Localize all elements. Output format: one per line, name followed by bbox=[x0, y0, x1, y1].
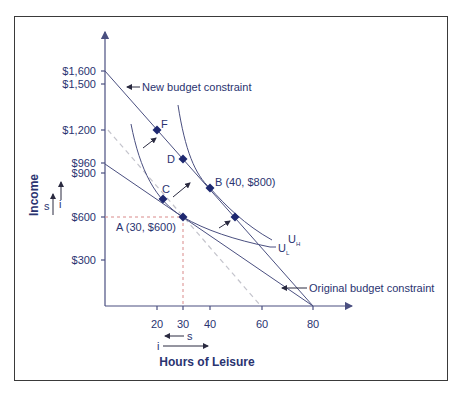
y-tick-300: $300 bbox=[72, 254, 96, 266]
point-d-label: D bbox=[167, 153, 175, 165]
uh-label: UH bbox=[288, 233, 300, 247]
point-a-label: A (30, $600) bbox=[116, 221, 176, 233]
point-b-label: B (40, $800) bbox=[215, 176, 276, 188]
shift-arrow-1-icon bbox=[143, 138, 156, 148]
i-label-y: i bbox=[59, 198, 61, 210]
y-tick-600: $600 bbox=[72, 211, 96, 223]
y-tick-1600: $1,600 bbox=[62, 65, 96, 77]
new-budget-label: New budget constraint bbox=[142, 81, 251, 93]
y-axis-title: Income bbox=[27, 174, 41, 216]
income-axis-effect-arrows: s i bbox=[44, 182, 61, 215]
indifference-curve-uh bbox=[178, 105, 272, 240]
y-tick-1500: $1,500 bbox=[62, 78, 96, 90]
x-tick-labels: 20 30 40 60 80 bbox=[151, 318, 319, 330]
x-tick-30: 30 bbox=[177, 318, 189, 330]
s-label-x: s bbox=[187, 330, 193, 342]
x-tick-40: 40 bbox=[204, 318, 216, 330]
point-f-label: F bbox=[161, 118, 168, 130]
y-tick-900: $900 bbox=[72, 167, 96, 179]
y-tick-1200: $1,200 bbox=[62, 124, 96, 136]
x-axis-title: Hours of Leisure bbox=[159, 355, 255, 369]
x-tick-80: 80 bbox=[307, 318, 319, 330]
shift-arrow-3-icon bbox=[219, 221, 230, 228]
y-tick-labels: $1,600 $1,500 $1,200 $960 $900 $600 $300 bbox=[62, 65, 96, 266]
i-label-x: i bbox=[157, 340, 159, 352]
x-tick-20: 20 bbox=[151, 318, 163, 330]
orig-budget-label: Original budget constraint bbox=[309, 282, 434, 294]
chart-canvas: $1,600 $1,500 $1,200 $960 $900 $600 $300… bbox=[0, 0, 464, 393]
shift-arrow-2-icon bbox=[173, 183, 190, 197]
leisure-axis-effect-arrows: s i bbox=[157, 330, 208, 352]
point-c-label: C bbox=[162, 183, 170, 195]
x-tick-60: 60 bbox=[256, 318, 268, 330]
s-label-y: s bbox=[44, 200, 50, 212]
